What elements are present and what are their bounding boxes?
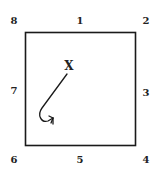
square-box [26,33,136,146]
label-2: 2 [143,15,150,26]
label-4: 4 [143,154,150,165]
label-1: 1 [77,15,84,26]
label-5: 5 [77,154,84,165]
label-8: 8 [11,15,18,26]
label-7: 7 [11,85,18,96]
label-3: 3 [143,87,150,98]
label-6: 6 [11,154,18,165]
diagram-canvas: 8 1 2 3 4 5 6 7 X [0,0,157,172]
curved-arrow-icon [40,74,67,124]
x-marker: X [64,59,74,73]
